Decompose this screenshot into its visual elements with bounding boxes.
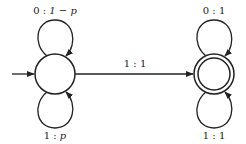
automaton-diagram: 0 : 1 − p 1 : p 1 : 1 0 : 1 1 : 1 (0, 0, 246, 144)
self-loop-q1-bottom (197, 92, 232, 128)
state-q0-initial (35, 54, 75, 94)
label-q1-bottom-loop: 1 : 1 (203, 130, 226, 141)
label-q0-q1: 1 : 1 (124, 58, 147, 69)
self-loop-q0-bottom (38, 92, 73, 128)
label-q0-bottom-loop: 1 : p (44, 130, 67, 141)
self-loop-q1-top (197, 20, 232, 56)
label-q0-top-loop: 0 : 1 − p (33, 5, 77, 16)
state-q1-accepting-inner (198, 58, 230, 90)
label-q1-top-loop: 0 : 1 (203, 5, 226, 16)
self-loop-q0-top (38, 20, 73, 56)
